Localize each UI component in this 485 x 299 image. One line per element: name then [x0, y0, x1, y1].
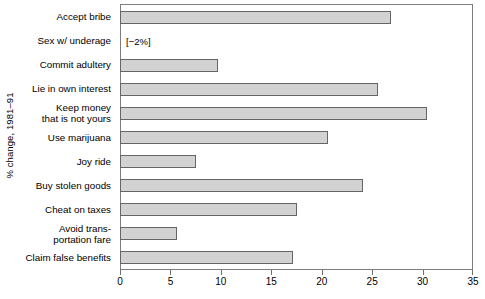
bar [120, 107, 427, 120]
bars-layer: [−2%] [121, 5, 472, 269]
bar-row [121, 101, 472, 125]
plot-area: [−2%] [120, 4, 473, 270]
bar [120, 59, 218, 72]
bar [120, 131, 328, 144]
category-label: Avoid trans- portation fare [18, 222, 116, 246]
bar-row [121, 149, 472, 173]
x-tick-mark [372, 270, 373, 275]
x-tick-mark [322, 270, 323, 275]
bar-row [121, 221, 472, 245]
category-label: Claim false benefits [18, 246, 116, 270]
category-label: Lie in own interest [18, 77, 116, 101]
bar [120, 251, 293, 264]
x-tick-label: 20 [316, 276, 327, 287]
bar-row [121, 125, 472, 149]
x-axis-tick-labels: 05101520253035 [120, 276, 473, 292]
category-label: Joy ride [18, 149, 116, 173]
x-tick-label: 25 [367, 276, 378, 287]
bar-row [121, 77, 472, 101]
x-tick-label: 30 [417, 276, 428, 287]
bar [120, 179, 363, 192]
bar-row [121, 5, 472, 29]
category-label: Sex w/ underage [18, 28, 116, 52]
x-tick-mark [170, 270, 171, 275]
category-label: Commit adultery [18, 52, 116, 76]
bar [120, 83, 378, 96]
bar-row [121, 245, 472, 269]
x-tick-label: 35 [467, 276, 478, 287]
bar [120, 11, 391, 24]
bar [120, 203, 297, 216]
bar-row [121, 173, 472, 197]
category-label: Use marijuana [18, 125, 116, 149]
bar-row [121, 53, 472, 77]
x-tick-label: 15 [266, 276, 277, 287]
category-label: Cheat on taxes [18, 198, 116, 222]
y-axis-title-text: % change, 1981–91 [4, 92, 15, 178]
x-tick-mark [221, 270, 222, 275]
category-label: Keep money that is not yours [18, 101, 116, 125]
category-label: Accept bribe [18, 4, 116, 28]
x-tick-mark [423, 270, 424, 275]
x-tick-mark [472, 270, 473, 275]
x-tick-label: 5 [168, 276, 174, 287]
bar-row [121, 197, 472, 221]
bar-value-annotation: [−2%] [126, 36, 151, 47]
x-tick-label: 10 [215, 276, 226, 287]
x-tick-mark [271, 270, 272, 275]
bar [120, 155, 196, 168]
x-tick-label: 0 [117, 276, 123, 287]
category-label: Buy stolen goods [18, 173, 116, 197]
y-axis-title: % change, 1981–91 [0, 0, 18, 270]
bar-chart-figure: % change, 1981–91 Accept bribe Sex w/ un… [0, 0, 485, 299]
x-tick-mark [120, 270, 121, 275]
bar [120, 227, 177, 240]
category-label-column: Accept bribe Sex w/ underage Commit adul… [18, 4, 116, 270]
bar-row: [−2%] [121, 29, 472, 53]
